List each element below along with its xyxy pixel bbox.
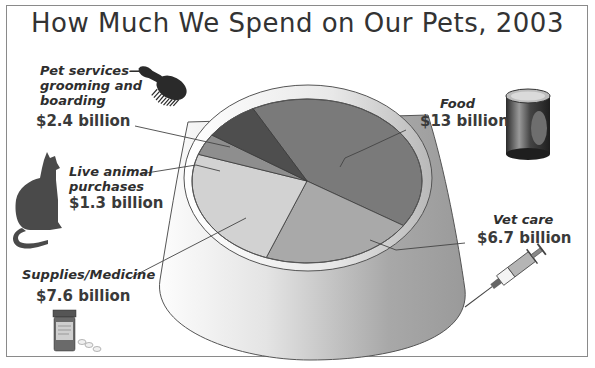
value-live-animal: $1.3 billion bbox=[69, 194, 164, 212]
label-supplies: Supplies/Medicine bbox=[22, 267, 155, 282]
cat-icon bbox=[13, 152, 62, 249]
food-can-icon bbox=[506, 89, 550, 160]
label-vet-care: Vet care bbox=[493, 212, 553, 227]
label-line: boarding bbox=[40, 93, 142, 108]
label-line: grooming and bbox=[40, 78, 142, 93]
pie-slices bbox=[192, 99, 422, 263]
label-live-animal: Live animal purchases bbox=[69, 164, 153, 194]
label-line: Pet services— bbox=[40, 63, 142, 78]
label-line: Live animal bbox=[69, 164, 153, 179]
value-pet-services: $2.4 billion bbox=[36, 112, 131, 130]
label-pet-services: Pet services— grooming and boarding bbox=[40, 63, 142, 108]
pill-bottle-icon bbox=[53, 310, 101, 352]
syringe-icon bbox=[460, 242, 548, 314]
value-food: $13 billion bbox=[420, 112, 509, 130]
value-vet-care: $6.7 billion bbox=[477, 229, 572, 247]
chart-title: How Much We Spend on Our Pets, 2003 bbox=[0, 8, 595, 38]
label-line: purchases bbox=[69, 179, 153, 194]
label-food: Food bbox=[440, 96, 475, 111]
value-supplies: $7.6 billion bbox=[36, 287, 131, 305]
